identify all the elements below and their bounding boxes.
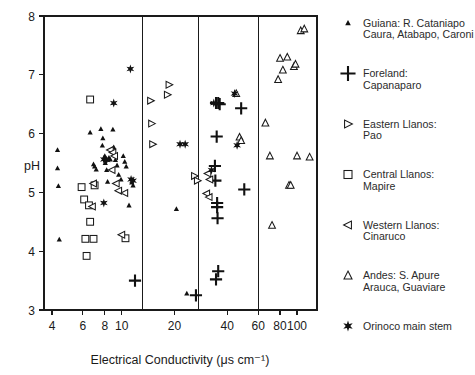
data-point [181, 140, 189, 149]
data-point [164, 91, 171, 98]
data-point [212, 265, 224, 277]
data-point [113, 180, 120, 187]
legend-label-line2: Caura, Atabapo, Caroni [363, 28, 474, 40]
data-point [118, 231, 125, 238]
data-point [148, 97, 155, 104]
series-0 [55, 126, 189, 295]
data-point [266, 152, 273, 159]
data-point [55, 147, 60, 152]
data-point [262, 119, 269, 126]
data-points-layer [55, 25, 313, 301]
legend-item: Orinoco main stem [343, 320, 452, 332]
data-point [126, 203, 131, 208]
x-tick-label: 100 [287, 319, 307, 333]
data-point [57, 237, 62, 242]
legend-marker-triangle-right-open [345, 120, 353, 128]
legend-label-line1: Andes: S. Apure [363, 269, 440, 281]
data-point [90, 235, 97, 242]
legend-label-line1: Foreland: [363, 67, 408, 79]
data-point [206, 176, 213, 183]
y-tick-label: 6 [28, 127, 35, 141]
y-axis-title: pH [24, 159, 40, 173]
data-point [235, 102, 247, 114]
x-tick-label: 6 [80, 319, 87, 333]
data-point [174, 206, 179, 211]
data-point [238, 183, 250, 195]
data-point [87, 218, 94, 225]
data-point [211, 212, 223, 224]
series-1 [129, 97, 250, 301]
x-axis-ticks: 4681020406080100 [49, 310, 308, 333]
x-tick-label: 40 [221, 319, 235, 333]
series-2 [148, 81, 201, 184]
data-point [277, 55, 284, 62]
legend-marker-triangle-left-open [344, 221, 352, 229]
x-axis-title: Electrical Conductivity (μs cm⁻¹) [91, 353, 270, 367]
legend-marker-square-open [344, 171, 352, 179]
data-point [306, 153, 313, 160]
data-point [122, 159, 127, 164]
ph-conductivity-scatter-figure: 4681020406080100 345678 pH Electrical Co… [0, 0, 475, 375]
data-point [176, 140, 184, 149]
legend-label-line1: Central Llanos: [363, 168, 434, 180]
data-point [110, 127, 115, 132]
legend-item: Eastern Llanos:Pao [345, 118, 437, 142]
data-point [116, 172, 121, 177]
data-point [87, 96, 94, 103]
legend-label-line1: Western Llanos: [363, 219, 439, 231]
data-point [100, 143, 105, 148]
legend-label-line1: Orinoco main stem [363, 320, 452, 332]
x-tick-label: 10 [115, 319, 129, 333]
legend-marker-star [343, 321, 352, 332]
data-point [275, 76, 282, 83]
data-point [100, 136, 105, 141]
data-point [56, 183, 61, 188]
plot-border [44, 16, 317, 310]
data-point [88, 130, 93, 135]
data-point [194, 177, 201, 184]
plot-frame [44, 16, 317, 310]
data-point [124, 164, 129, 169]
data-point [211, 130, 223, 142]
panel-divider-lines [143, 16, 258, 310]
legend-item: Andes: S. ApureArauca, Guaviare [344, 269, 446, 293]
data-point [83, 253, 90, 260]
data-point [150, 141, 157, 148]
x-tick-label: 80 [273, 319, 287, 333]
data-point [82, 235, 89, 242]
x-tick-label: 20 [168, 319, 182, 333]
data-point [78, 184, 85, 191]
legend-marker-triangle-up-open [344, 271, 352, 279]
data-point [269, 222, 276, 229]
data-point [149, 120, 156, 127]
legend-label-line1: Guiana: R. Cataniapo [363, 17, 465, 29]
data-point [284, 53, 291, 60]
data-point [100, 198, 108, 207]
legend-item: Western Llanos:Cinaruco [344, 219, 440, 243]
y-tick-label: 4 [28, 245, 35, 259]
y-tick-label: 7 [28, 68, 35, 82]
chart-legend: Guiana: R. CataniapoCaura, Atabapo, Caro… [340, 17, 473, 332]
legend-label-line2: Pao [363, 129, 382, 141]
data-point [110, 99, 118, 108]
x-tick-label: 4 [49, 319, 56, 333]
y-tick-label: 3 [28, 304, 35, 318]
data-point [121, 153, 126, 158]
x-tick-label: 60 [251, 319, 265, 333]
y-tick-label: 5 [28, 186, 35, 200]
legend-marker-plus [340, 66, 355, 81]
data-point [190, 289, 202, 301]
legend-item: Guiana: R. CataniapoCaura, Atabapo, Caro… [345, 17, 474, 41]
legend-label-line2: Cinaruco [363, 230, 406, 242]
data-point [129, 275, 141, 287]
legend-label-line2: Mapire [363, 180, 395, 192]
data-point [210, 273, 222, 285]
data-point [108, 167, 115, 174]
legend-label-line2: Arauca, Guaviare [363, 281, 446, 293]
data-point [126, 64, 134, 73]
data-point [105, 179, 110, 184]
data-point [279, 66, 286, 73]
legend-label-line1: Eastern Llanos: [363, 118, 437, 130]
legend-label-line2: Capanaparo [363, 79, 421, 91]
legend-item: Foreland:Capanaparo [340, 66, 421, 91]
